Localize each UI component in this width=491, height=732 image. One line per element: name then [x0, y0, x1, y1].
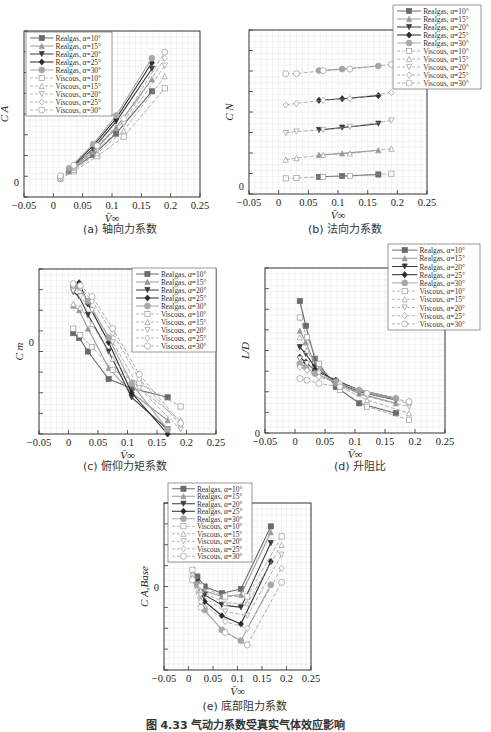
svg-text:0.2: 0.2 — [280, 673, 293, 684]
legend: Realgas, α=10°Realgas, α=15°Realgas, α=2… — [168, 483, 252, 562]
svg-text:−0.05: −0.05 — [152, 673, 176, 684]
svg-text:0: 0 — [186, 673, 191, 684]
y-tick-label: 0 — [154, 582, 159, 593]
svg-text:0.1: 0.1 — [231, 673, 244, 684]
y-axis-label: C A,Base — [138, 566, 150, 607]
x-axis-label: V̄∞ — [230, 685, 245, 697]
svg-text:0.05: 0.05 — [204, 673, 222, 684]
svg-text:0.25: 0.25 — [302, 673, 320, 684]
x-axis-ticks: −0.0500.050.10.150.20.25 — [152, 666, 320, 684]
legend-entry: Viscous, α=30° — [197, 552, 242, 561]
svg-text:0.15: 0.15 — [253, 673, 271, 684]
